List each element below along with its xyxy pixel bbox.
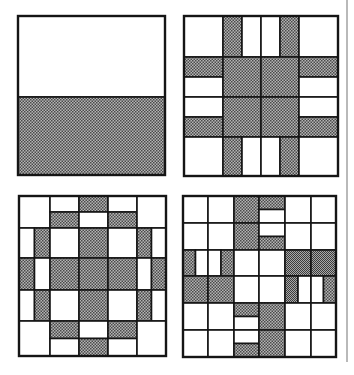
quilt-pattern-figure [0,0,354,375]
quilt-cell [208,303,234,330]
quilt-cell-half [259,237,285,251]
quilt-cell-half [108,339,137,357]
quilt-cell-half [196,250,209,276]
quilt-cell-half [299,57,338,77]
quilt-cell [19,321,50,356]
quilt-cell-half [234,303,259,317]
quilt-cell [223,57,261,97]
quilt-cell-half [79,321,108,339]
quilt-cell [259,276,285,303]
quilt-cell [234,223,259,250]
quilt-cell [259,250,285,276]
quilt-cell-half [19,228,35,258]
quilt-cell-half [184,77,223,97]
quilt-cell-half [298,276,311,303]
quilt-cell-half [19,290,35,321]
quilt-cell [285,303,311,330]
quilt-cell [223,97,261,137]
quilt-cell [183,276,208,303]
quilt-cell [108,228,137,258]
quilt-cell-half [108,212,137,228]
quilt-cell-half [184,57,223,77]
quilt-cell-half [50,212,79,228]
quilt-cell [259,330,285,357]
quilt-cell-half [184,97,223,117]
quilt-cell [50,228,79,258]
page-edge-rule [346,0,348,362]
quilt-cell [311,303,336,330]
quilt-cell [108,258,137,290]
quilt-cell-half [137,228,152,258]
quilt-cell-half [234,344,259,358]
panel-top-right [184,16,338,176]
quilt-cell [311,250,336,276]
quilt-cell [208,276,234,303]
quilt-cell [299,16,338,57]
quilt-cell-half [137,290,152,321]
quilt-cell-half [299,117,338,137]
quilt-cell-half [285,276,298,303]
quilt-cell-half [152,258,167,290]
quilt-cell [50,290,79,321]
quilt-cell [18,16,165,97]
quilt-cell [285,196,311,223]
quilt-cell [208,223,234,250]
panel-bottom-left [19,196,166,356]
quilt-cell-half [35,290,51,321]
quilt-cell [184,16,223,57]
quilt-cell [137,196,166,228]
quilt-cell [18,97,165,175]
quilt-cell-half [108,321,137,339]
quilt-cell-half [184,117,223,137]
quilt-cell [50,258,79,290]
quilt-cell-half [79,196,108,212]
quilt-cell-half [311,276,324,303]
quilt-cell-half [259,223,285,237]
quilt-cell-half [261,16,280,57]
quilt-cell-half [223,137,242,176]
quilt-cell [234,276,259,303]
quilt-cell-half [259,210,285,224]
quilt-cell-half [183,250,196,276]
quilt-cell-half [234,330,259,344]
quilt-cell-half [299,77,338,97]
quilt-cell-half [50,339,79,357]
quilt-cell [79,258,108,290]
quilt-cell [261,57,299,97]
quilt-cell-half [221,250,234,276]
panel-bottom-right [183,196,336,357]
quilt-cell [19,196,50,228]
quilt-cell [261,97,299,137]
panel-top-left [18,16,165,175]
quilt-cell-half [208,250,221,276]
quilt-cell [259,303,285,330]
quilt-cell [183,330,208,357]
quilt-cell-half [223,16,242,57]
quilt-cell-half [35,258,51,290]
quilt-cell-half [261,137,280,176]
quilt-cell [234,250,259,276]
quilt-cell [79,228,108,258]
quilt-cell-half [50,321,79,339]
quilt-cell-half [280,137,299,176]
quilt-cell [184,137,223,176]
quilt-cell-half [137,258,152,290]
quilt-cell [137,321,166,356]
quilt-cell [79,290,108,321]
quilt-cell [285,223,311,250]
quilt-cell-half [242,16,261,57]
quilt-cell-half [19,258,35,290]
quilt-cell-half [108,196,137,212]
quilt-cell-half [152,228,167,258]
quilt-cell-half [324,276,337,303]
quilt-cell [311,330,336,357]
quilt-cell [234,196,259,223]
quilt-cell-half [79,339,108,357]
quilt-cell-half [299,97,338,117]
quilt-cell [183,223,208,250]
quilt-cell [183,303,208,330]
quilt-cell-half [259,196,285,210]
quilt-cell [208,196,234,223]
quilt-cell-half [280,16,299,57]
quilt-cell [311,223,336,250]
